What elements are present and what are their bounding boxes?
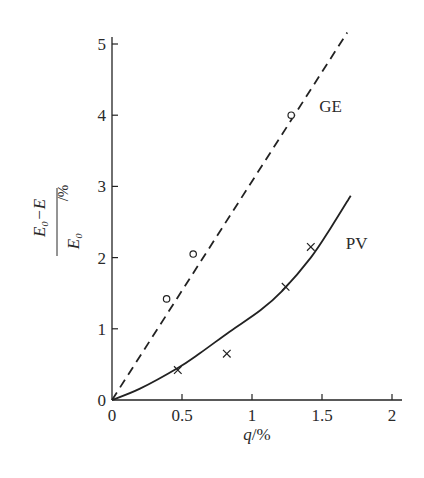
x-tick-label: 1.5 [311,406,332,425]
series-ge [112,33,347,400]
series-label-pv: PV [346,234,368,253]
y-tick-label: 0 [98,391,107,410]
y-axis-title: E₀−E E₀ /% [30,185,83,256]
series-ge-line [112,33,347,400]
chart-canvas: 00.511.52 012345 q/% E₀−E E₀ /% GE PV [0,0,424,478]
series-layer [112,33,351,400]
data-point-circle [288,112,294,118]
x-axis-title: q/% [243,425,270,444]
y-tick-label: 3 [98,177,107,196]
axes [112,37,402,400]
x-axis-ticks: 00.511.52 [108,394,397,425]
y-axis-title-unit: /% [55,185,71,202]
x-tick-label: 0.5 [171,406,192,425]
data-point-circle [163,296,169,302]
series-label-ge: GE [319,97,342,116]
x-tick-label: 1 [248,406,257,425]
series-pv [112,196,351,400]
data-point-cross [223,350,231,358]
data-point-cross [282,283,290,291]
x-axis-title-unit: /% [252,425,271,444]
x-tick-label: 0 [108,406,117,425]
y-axis-title-numerator: E₀−E [30,198,49,238]
y-axis-ticks: 012345 [98,35,119,410]
chart: 00.511.52 012345 q/% E₀−E E₀ /% GE PV [0,0,424,478]
y-tick-label: 4 [98,106,107,125]
series-pv-line [112,196,351,400]
y-tick-label: 2 [98,249,107,268]
y-tick-label: 5 [98,35,107,54]
y-tick-label: 1 [98,320,107,339]
data-point-circle [190,251,196,257]
y-axis-title-denominator: E₀ [64,233,83,250]
x-tick-label: 2 [388,406,397,425]
data-point-cross [307,243,315,251]
